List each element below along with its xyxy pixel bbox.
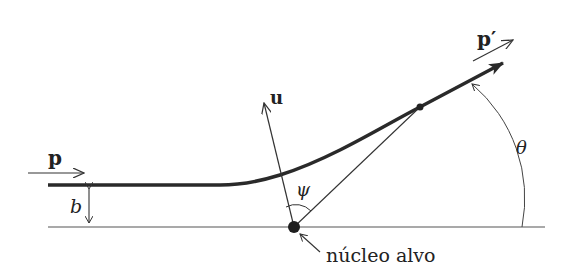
u-label: u xyxy=(270,87,283,108)
theta-label: θ xyxy=(516,137,527,158)
trajectory-point xyxy=(417,104,424,111)
target-label: núcleo alvo xyxy=(326,244,436,266)
scattering-diagram: p p′ b u ψ θ núcleo alvo xyxy=(0,0,563,276)
target-pointer-arrow xyxy=(300,234,320,252)
radius-line xyxy=(294,107,420,227)
p-prime-label: p′ xyxy=(477,27,496,51)
target-nucleus xyxy=(288,221,300,233)
trajectory xyxy=(48,63,503,185)
psi-label: ψ xyxy=(296,179,311,200)
b-label: b xyxy=(70,195,82,217)
u-arrow xyxy=(264,103,294,227)
p-label: p xyxy=(48,146,62,170)
